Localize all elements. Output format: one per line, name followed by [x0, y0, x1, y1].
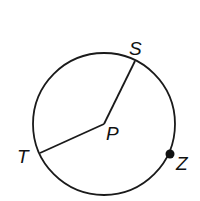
label-z: Z: [175, 153, 189, 174]
radius-ps: [104, 61, 135, 124]
label-s: S: [129, 38, 142, 59]
point-z-marker: [166, 150, 175, 159]
radius-pt: [40, 124, 104, 153]
label-p: P: [106, 123, 119, 144]
circle-diagram: S P T Z: [0, 0, 200, 201]
label-t: T: [17, 146, 30, 167]
